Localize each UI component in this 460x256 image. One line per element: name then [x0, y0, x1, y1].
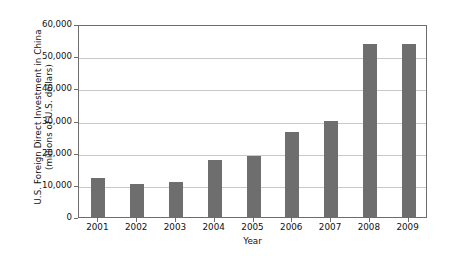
y-axis-tick-mark	[74, 186, 78, 187]
bar-2008	[363, 44, 377, 217]
x-axis-tick-label: 2009	[388, 222, 428, 232]
x-axis-tick-mark	[330, 218, 331, 222]
y-axis-tick-mark	[74, 122, 78, 123]
x-axis-tick-mark	[253, 218, 254, 222]
bar-2004	[208, 160, 222, 217]
y-axis-tick-label: 20,000	[28, 148, 72, 158]
x-axis-tick-label: 2006	[271, 222, 311, 232]
bar-2009	[402, 44, 416, 217]
bar-2005	[247, 156, 261, 217]
y-axis-tick-mark	[74, 154, 78, 155]
x-axis-tick-labels: 200120022003200420052006200720082009	[78, 222, 427, 236]
x-axis-tick-mark	[291, 218, 292, 222]
x-axis-tick-label: 2004	[194, 222, 234, 232]
y-axis-tick-label: 10,000	[28, 180, 72, 190]
bar-2007	[324, 121, 338, 218]
y-axis-tick-labels: 010,00020,00030,00040,00050,00060,000	[28, 0, 74, 256]
y-axis-tick-mark	[74, 57, 78, 58]
x-axis-tick-label: 2008	[349, 222, 389, 232]
bar-2001	[91, 178, 105, 217]
x-axis-tick-mark	[408, 218, 409, 222]
y-axis-tick-mark	[74, 25, 78, 26]
x-axis-tick-label: 2007	[310, 222, 350, 232]
bar-chart-figure: U.S. Foreign Direct Investment in China …	[0, 0, 460, 256]
x-axis-tick-mark	[136, 218, 137, 222]
x-axis-tick-mark	[175, 218, 176, 222]
x-axis-tick-mark	[369, 218, 370, 222]
x-axis-tick-label: 2003	[155, 222, 195, 232]
plot-area	[78, 25, 427, 218]
bar-2006	[285, 132, 299, 217]
y-axis-tick-label: 0	[28, 212, 72, 222]
x-axis-tick-label: 2002	[116, 222, 156, 232]
x-axis-tick-mark	[214, 218, 215, 222]
x-axis-tick-label: 2005	[233, 222, 273, 232]
bar-2002	[130, 184, 144, 217]
y-axis-tick-mark	[74, 218, 78, 219]
y-axis-tick-label: 50,000	[28, 51, 72, 61]
y-axis-tick-label: 30,000	[28, 116, 72, 126]
y-axis-tick-label: 60,000	[28, 19, 72, 29]
y-axis-tick-label: 40,000	[28, 83, 72, 93]
x-axis-tick-mark	[97, 218, 98, 222]
x-axis-tick-label: 2001	[77, 222, 117, 232]
y-axis-tick-mark	[74, 89, 78, 90]
x-axis-title: Year	[78, 236, 427, 246]
bar-2003	[169, 182, 183, 217]
